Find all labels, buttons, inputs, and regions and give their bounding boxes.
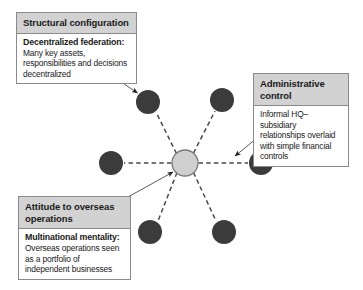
callout-header-structural-configuration: Structural configuration: [17, 13, 136, 34]
spoke-lower-left: [158, 173, 177, 222]
callout-header-administrative-control: Administrative control: [254, 74, 348, 106]
callout-detail-structural-configuration: Many key assets, responsibilities and de…: [23, 48, 131, 80]
subsidiary-node-lower-left: [138, 220, 162, 244]
callout-detail-attitude-to-overseas-operations: Overseas operations seen as a portfolio …: [25, 243, 125, 275]
headquarters-hub: [172, 150, 198, 176]
callout-detail-administrative-control: Informal HQ–subsidiary relationships ove…: [260, 109, 343, 162]
subsidiary-node-left: [99, 151, 123, 175]
callout-structural-configuration[interactable]: Structural configuration Decentralized f…: [16, 12, 137, 84]
diagram-canvas: Structural configuration Decentralized f…: [0, 0, 363, 290]
subsidiary-node-lower-right: [212, 220, 236, 244]
callout-lead-structural-configuration: Decentralized federation:: [23, 37, 131, 48]
spoke-upper-left: [156, 112, 177, 154]
callout-body-administrative-control: Informal HQ–subsidiary relationships ove…: [254, 106, 348, 166]
callout-administrative-control[interactable]: Administrative control Informal HQ–subsi…: [253, 73, 349, 167]
subsidiary-node-upper-right: [210, 88, 234, 112]
callout-header-attitude-to-overseas-operations: Attitude to overseas operations: [19, 197, 130, 229]
callout-lead-attitude-to-overseas-operations: Multinational mentality:: [25, 232, 125, 243]
leader-lines: [111, 75, 262, 197]
callout-attitude-to-overseas-operations[interactable]: Attitude to overseas operations Multinat…: [18, 196, 131, 280]
callout-body-attitude-to-overseas-operations: Multinational mentality: Overseas operat…: [19, 229, 130, 279]
leader-line-attitude: [128, 172, 173, 197]
spoke-upper-right: [194, 111, 216, 153]
callout-body-structural-configuration: Decentralized federation: Many key asset…: [17, 34, 136, 84]
subsidiary-node-upper-left: [136, 90, 160, 114]
spoke-lower-right: [194, 173, 217, 222]
